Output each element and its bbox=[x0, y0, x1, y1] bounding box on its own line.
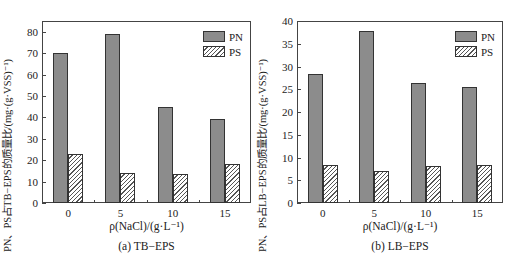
y-tick-mark bbox=[297, 67, 301, 68]
x-tick-label: 5 bbox=[105, 207, 135, 219]
y-tick-mark bbox=[42, 139, 46, 140]
pn-bar bbox=[359, 31, 374, 203]
y-tick-label: 50 bbox=[16, 90, 38, 102]
y-tick-label: 15 bbox=[271, 129, 293, 141]
y-tick-label: 20 bbox=[271, 106, 293, 118]
x-tick-label: 0 bbox=[308, 207, 338, 219]
x-tick-mark bbox=[94, 200, 95, 203]
y-tick-mark bbox=[42, 117, 46, 118]
x-tick-mark bbox=[147, 200, 148, 203]
y-axis-label: PN、PS占LB−EPS的质量比/(mg·(g·VSS)⁻¹) bbox=[257, 59, 269, 252]
x-axis-label: ρ(NaCl)/(g·L⁻¹) bbox=[42, 219, 251, 233]
legend-label-pn: PN bbox=[481, 31, 495, 43]
ps-bar bbox=[477, 165, 492, 203]
y-tick-label: 0 bbox=[16, 197, 38, 209]
ps-swatch-icon bbox=[203, 46, 225, 57]
y-tick-mark bbox=[42, 75, 46, 76]
y-tick-label: 30 bbox=[16, 133, 38, 145]
y-tick-label: 25 bbox=[271, 83, 293, 95]
y-tick-label: 10 bbox=[16, 176, 38, 188]
pn-bar bbox=[411, 83, 426, 203]
y-tick-label: 60 bbox=[16, 69, 38, 81]
y-tick-mark bbox=[297, 135, 301, 136]
ps-bar bbox=[323, 165, 338, 203]
pn-bar bbox=[308, 74, 323, 203]
x-tick-mark bbox=[349, 200, 350, 203]
y-tick-label: 40 bbox=[16, 111, 38, 123]
y-tick-label: 5 bbox=[271, 174, 293, 186]
legend-item-ps: PS bbox=[455, 45, 495, 58]
legend-label-pn: PN bbox=[229, 31, 243, 43]
chart-caption: (a) TB−EPS bbox=[42, 240, 251, 252]
y-tick-label: 70 bbox=[16, 47, 38, 59]
ps-bar bbox=[426, 166, 441, 203]
legend-item-pn: PN bbox=[455, 30, 495, 43]
pn-swatch-icon bbox=[455, 31, 477, 42]
y-tick-mark bbox=[42, 203, 46, 204]
legend-item-pn: PN bbox=[203, 30, 243, 43]
y-tick-label: 20 bbox=[16, 154, 38, 166]
pn-bar bbox=[462, 87, 477, 203]
legend-label-ps: PS bbox=[229, 46, 241, 58]
legend-label-ps: PS bbox=[481, 46, 493, 58]
x-tick-label: 10 bbox=[411, 207, 441, 219]
y-tick-label: 40 bbox=[271, 15, 293, 27]
y-tick-mark bbox=[42, 96, 46, 97]
y-tick-mark bbox=[42, 160, 46, 161]
x-axis-label: ρ(NaCl)/(g·L⁻¹) bbox=[297, 219, 503, 233]
y-tick-mark bbox=[297, 180, 301, 181]
x-tick-mark bbox=[199, 200, 200, 203]
chart-legend: PN PS bbox=[455, 30, 495, 60]
ps-bar bbox=[225, 164, 240, 203]
x-tick-mark bbox=[452, 200, 453, 203]
ps-bar bbox=[120, 173, 135, 203]
pn-bar bbox=[158, 107, 173, 203]
y-tick-label: 10 bbox=[271, 152, 293, 164]
x-tick-label: 15 bbox=[462, 207, 492, 219]
x-tick-mark bbox=[400, 200, 401, 203]
chart-caption: (b) LB−EPS bbox=[297, 240, 503, 252]
y-tick-mark bbox=[297, 203, 301, 204]
chart-panel-tb-eps: 01020304050607080051015PN、PS占TB−EPS的质量比/… bbox=[0, 0, 256, 260]
x-tick-label: 5 bbox=[359, 207, 389, 219]
y-tick-mark bbox=[297, 158, 301, 159]
y-tick-label: 35 bbox=[271, 38, 293, 50]
pn-bar bbox=[210, 119, 225, 203]
y-axis-label: PN、PS占TB−EPS的质量比/(mg·(g·VSS)⁻¹) bbox=[2, 59, 14, 252]
y-tick-mark bbox=[42, 182, 46, 183]
y-tick-mark bbox=[297, 21, 301, 22]
x-tick-label: 0 bbox=[53, 207, 83, 219]
y-tick-mark bbox=[42, 53, 46, 54]
pn-swatch-icon bbox=[203, 31, 225, 42]
ps-bar bbox=[173, 174, 188, 203]
x-tick-label: 10 bbox=[158, 207, 188, 219]
y-tick-mark bbox=[42, 32, 46, 33]
x-tick-label: 15 bbox=[210, 207, 240, 219]
y-tick-label: 0 bbox=[271, 197, 293, 209]
ps-swatch-icon bbox=[455, 46, 477, 57]
y-tick-label: 80 bbox=[16, 26, 38, 38]
pn-bar bbox=[105, 34, 120, 203]
ps-bar bbox=[374, 171, 389, 203]
y-tick-label: 30 bbox=[271, 61, 293, 73]
chart-panel-lb-eps: 0510152025303540051015PN、PS占LB−EPS的质量比/(… bbox=[256, 0, 512, 260]
pn-bar bbox=[53, 53, 68, 203]
y-tick-mark bbox=[297, 112, 301, 113]
legend-item-ps: PS bbox=[203, 45, 243, 58]
chart-legend: PN PS bbox=[203, 30, 243, 60]
y-tick-mark bbox=[297, 89, 301, 90]
ps-bar bbox=[68, 154, 83, 203]
y-tick-mark bbox=[297, 44, 301, 45]
